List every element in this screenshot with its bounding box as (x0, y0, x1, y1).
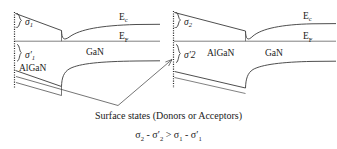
right-sigma2prime-brace (177, 45, 181, 63)
right-sigma2-brace (177, 13, 181, 28)
right-sigma2-label: σ2 (184, 17, 193, 29)
right-ec-label: Ec (303, 11, 312, 23)
left-sigma1prime-brace (18, 45, 22, 62)
left-surface-pointer (16, 77, 118, 106)
left-panel: σ1 σ′1 AlGaN GaN Ec EF (15, 12, 161, 106)
right-surface-pointer (118, 60, 172, 106)
caption-line-1: Surface states (Donors or Acceptors) (95, 110, 242, 122)
caption-formula: σ2 - σ′2 > σ1 - σ′1 (135, 129, 201, 142)
right-gan-label: GaN (265, 48, 283, 58)
left-sigma1-label: σ1 (25, 17, 33, 29)
right-valence-band-gan (246, 61, 337, 88)
band-diagram-figure: σ1 σ′1 AlGaN GaN Ec EF (0, 0, 337, 149)
left-ef-label: EF (119, 31, 129, 43)
caption-group: Surface states (Donors or Acceptors) σ2 … (95, 110, 242, 142)
left-algan-label: AlGaN (19, 63, 47, 73)
left-ec-label: Ec (119, 12, 128, 24)
right-conduction-band-gan (246, 24, 337, 39)
right-algan-label: AlGaN (207, 48, 235, 58)
left-conduction-band-gan (62, 24, 161, 39)
left-conduction-band (16, 14, 62, 31)
left-gan-label: GaN (86, 47, 104, 57)
right-sigma2prime-label: σ′2 (184, 50, 196, 60)
left-sigma1prime-label: σ′1 (25, 50, 35, 62)
right-ef-label: EF (303, 31, 313, 43)
